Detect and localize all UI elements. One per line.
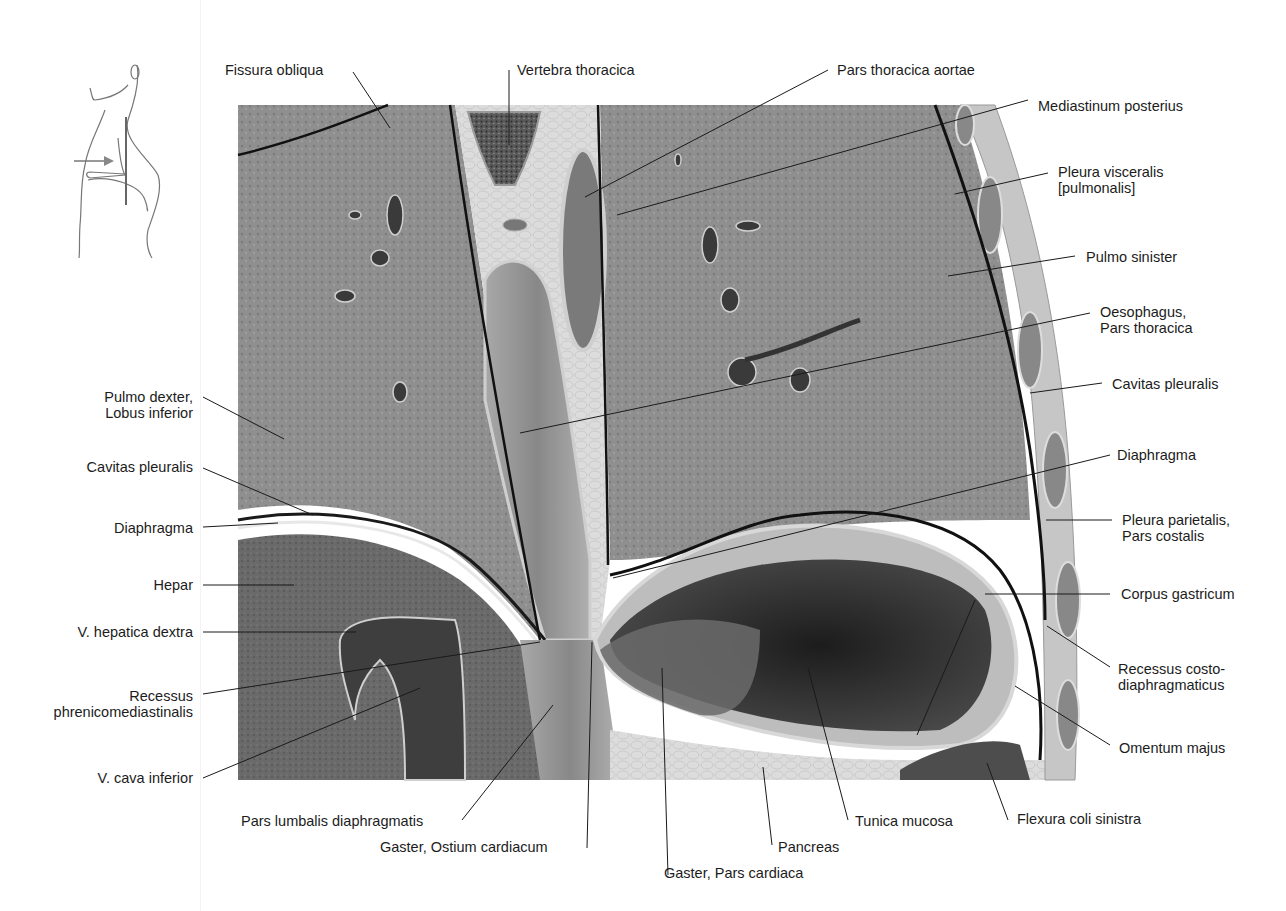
label-tunica-mucosa: Tunica mucosa: [855, 813, 953, 829]
view-direction-arrow: [104, 156, 114, 166]
label-line: Recessus: [54, 688, 193, 704]
label-line: Pleura parietalis,: [1122, 512, 1230, 528]
label-line: Pulmo dexter,: [104, 389, 193, 405]
label-line: Oesophagus,: [1100, 304, 1193, 320]
label-recessus-phrenicomediastinalis: Recessus phrenicomediastinalis: [54, 688, 193, 720]
section-drawing: [236, 103, 1080, 782]
label-cavitas-pleuralis-right: Cavitas pleuralis: [1112, 376, 1218, 392]
label-recessus-costodiaphragmaticus: Recessus costo- diaphragmaticus: [1118, 661, 1225, 693]
label-pleura-visceralis: Pleura visceralis [pulmonalis]: [1058, 164, 1164, 196]
body-outline-sagittal-icon: [74, 65, 160, 258]
aorta-region: [561, 150, 605, 350]
label-v-cava-inferior: V. cava inferior: [98, 770, 193, 786]
label-flexura-coli-sinistra: Flexura coli sinistra: [1017, 811, 1141, 827]
label-hepar: Hepar: [154, 577, 194, 593]
label-line: Pars thoracica: [1100, 320, 1193, 336]
label-fissura-obliqua: Fissura obliqua: [225, 62, 323, 78]
label-line: Pars costalis: [1122, 528, 1230, 544]
label-cavitas-pleuralis-left: Cavitas pleuralis: [87, 459, 193, 475]
label-diaphragma-left: Diaphragma: [114, 520, 193, 536]
label-pars-thoracica-aortae: Pars thoracica aortae: [837, 62, 975, 78]
label-pleura-parietalis: Pleura parietalis, Pars costalis: [1122, 512, 1230, 544]
label-line: Pleura visceralis: [1058, 164, 1164, 180]
label-pars-lumbalis-diaphragmatis: Pars lumbalis diaphragmatis: [241, 813, 423, 829]
label-line: Recessus costo-: [1118, 661, 1225, 677]
label-pulmo-sinister: Pulmo sinister: [1086, 249, 1177, 265]
label-line: [pulmonalis]: [1058, 180, 1164, 196]
label-diaphragma-right: Diaphragma: [1117, 447, 1196, 463]
label-corpus-gastricum: Corpus gastricum: [1121, 586, 1235, 602]
label-vertebra-thoracica: Vertebra thoracica: [517, 62, 635, 78]
anatomy-figure: Fissura obliqua Vertebra thoracica Pars …: [0, 0, 1286, 911]
label-omentum-majus: Omentum majus: [1119, 740, 1225, 756]
label-line: Lobus inferior: [104, 405, 193, 421]
label-pancreas: Pancreas: [778, 839, 839, 855]
label-gaster-ostium-cardiacum: Gaster, Ostium cardiacum: [380, 839, 548, 855]
label-oesophagus: Oesophagus, Pars thoracica: [1100, 304, 1193, 336]
label-pulmo-dexter: Pulmo dexter, Lobus inferior: [104, 389, 193, 421]
label-line: phrenicomediastinalis: [54, 704, 193, 720]
label-gaster-pars-cardiaca: Gaster, Pars cardiaca: [664, 865, 803, 881]
label-mediastinum-posterius: Mediastinum posterius: [1038, 98, 1183, 114]
label-v-hepatica-dextra: V. hepatica dextra: [77, 624, 193, 640]
label-line: diaphragmaticus: [1118, 677, 1225, 693]
pulmo-sinister-region: [600, 105, 1030, 560]
